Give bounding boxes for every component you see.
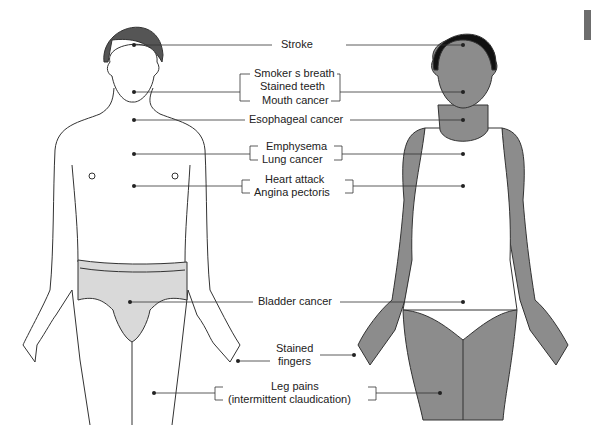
- female-neck: [438, 105, 488, 141]
- female-legs: [403, 310, 517, 420]
- male-figure: [23, 27, 240, 425]
- label-smokers-breath: Smoker s breath: [252, 67, 337, 80]
- label-leg-pains: Leg pains: [269, 380, 321, 393]
- label-stained: Stained: [274, 342, 315, 355]
- label-claudication: (intermittent claudication): [226, 393, 353, 406]
- label-emphysema: Emphysema: [264, 140, 329, 153]
- label-fingers: fingers: [276, 355, 313, 368]
- label-stained-teeth: Stained teeth: [258, 80, 327, 93]
- label-mouth-cancer: Mouth cancer: [260, 94, 331, 107]
- label-bladder-cancer: Bladder cancer: [256, 295, 334, 308]
- label-stroke: Stroke: [279, 38, 315, 51]
- body-diagram: [0, 0, 591, 435]
- label-lung-cancer: Lung cancer: [260, 153, 325, 166]
- label-angina-pectoris: Angina pectoris: [252, 186, 332, 199]
- label-esophageal-cancer: Esophageal cancer: [247, 113, 345, 126]
- label-heart-attack: Heart attack: [263, 173, 326, 186]
